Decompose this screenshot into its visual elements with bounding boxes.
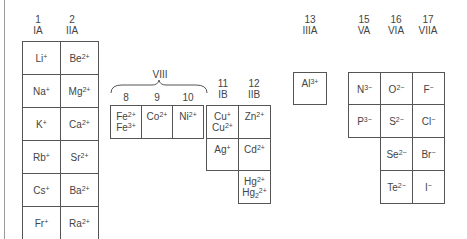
- ion-cd: Cd2+: [244, 144, 265, 155]
- ion-cell: Ca2+: [60, 107, 99, 141]
- ion-cell: Na+: [22, 74, 61, 108]
- ion-cell: O2−: [380, 72, 413, 106]
- ion-p: P3−: [357, 116, 372, 127]
- ion-cell: K+: [22, 107, 61, 141]
- ion-cell: Fr+: [22, 206, 61, 239]
- ion-i: I−: [425, 182, 432, 193]
- ion-hg: Hg2+: [244, 176, 265, 187]
- ion-o: O2−: [389, 84, 405, 95]
- ion-cell: Co2+: [141, 105, 173, 139]
- ion-cell: Ra2+: [60, 206, 99, 239]
- group-header-2: 2IIA: [56, 14, 88, 36]
- group-roman: IB: [207, 89, 239, 100]
- ion-k: K+: [36, 119, 47, 130]
- ion-cell: S2−: [380, 104, 413, 138]
- group-header-13: 13IIIA: [294, 14, 326, 36]
- ion-cell: Cu+Cu2+: [206, 105, 239, 139]
- ion-sr: Sr2+: [71, 152, 89, 163]
- ion-cell: N3−: [348, 72, 381, 106]
- frame-left-border: [4, 0, 5, 239]
- ion-cl: Cl−: [422, 116, 436, 127]
- ion-li: Li+: [36, 53, 48, 64]
- group-roman: IIIA: [294, 25, 326, 36]
- ion-ca: Ca2+: [69, 119, 90, 130]
- ion-n: N3−: [357, 84, 372, 95]
- group-roman: VIA: [380, 25, 412, 36]
- ion-rb: Rb+: [33, 152, 50, 163]
- ion-ni: Ni2+: [179, 111, 196, 122]
- ion-te: Te2−: [387, 182, 406, 193]
- ion-cell: Hg2+Hg22+: [238, 170, 271, 204]
- ion-cell: Fe2+Fe3+: [110, 105, 142, 139]
- ion-cell: I−: [412, 170, 445, 204]
- ion-cell: Be2+: [60, 41, 99, 75]
- ion-s: S2−: [389, 116, 404, 127]
- group-number: 12: [238, 78, 270, 89]
- group-header-17: 17VIIA: [412, 14, 444, 36]
- group-roman: IIB: [238, 89, 270, 100]
- ion-al: Al3+: [302, 78, 319, 89]
- group-header-11: 11IB: [207, 78, 239, 100]
- ion-cu: Cu+: [214, 111, 231, 122]
- ion-ag: Ag+: [214, 144, 230, 155]
- ion-ra: Ra2+: [69, 218, 90, 229]
- group-header-12: 12IIB: [238, 78, 270, 100]
- ion-cell: F−: [412, 72, 445, 106]
- group-number: 1: [22, 14, 54, 25]
- group-roman: VIIA: [412, 25, 444, 36]
- ion-cell: Cd2+: [238, 138, 271, 171]
- group-roman: VA: [348, 25, 380, 36]
- ion-zn: Zn2+: [245, 111, 265, 122]
- group-header-1: 1IA: [22, 14, 54, 36]
- ion-cell: Ag+: [206, 138, 239, 171]
- group-header-15: 15VA: [348, 14, 380, 36]
- ion-cell: Se2−: [380, 137, 413, 171]
- ion-na: Na+: [33, 86, 50, 97]
- ion-cell: Al3+: [293, 72, 327, 105]
- ion-fr: Fr+: [35, 218, 49, 229]
- ion-be: Be2+: [69, 53, 89, 64]
- ion-cu: Cu2+: [212, 122, 233, 133]
- ion-cell: Mg2+: [60, 74, 99, 108]
- group-number: 13: [294, 14, 326, 25]
- ion-co: Co2+: [147, 111, 168, 122]
- ion-fe: Fe2+: [116, 111, 136, 122]
- ion-cell: Br−: [412, 137, 445, 171]
- group-roman: IIA: [56, 25, 88, 36]
- ion-cell: Ba2+: [60, 173, 99, 207]
- ion-cell: Li+: [22, 41, 61, 75]
- ion-cell: Cs+: [22, 173, 61, 207]
- ion-fe: Fe3+: [116, 122, 136, 133]
- group-number: 15: [348, 14, 380, 25]
- ion-se: Se2−: [386, 149, 406, 160]
- group-header-16: 16VIA: [380, 14, 412, 36]
- ion-cell: Te2−: [380, 170, 413, 204]
- ion-mg: Mg2+: [69, 86, 91, 97]
- group-number: 2: [56, 14, 88, 25]
- ion-cell: P3−: [348, 104, 381, 138]
- ion-ba: Ba2+: [69, 185, 89, 196]
- ion-cell: Ni2+: [172, 105, 204, 139]
- group-number: 11: [207, 78, 239, 89]
- group-number: 16: [380, 14, 412, 25]
- group-roman: IA: [22, 25, 54, 36]
- ion-cs: Cs+: [33, 185, 49, 196]
- ion-cell: Zn2+: [238, 105, 271, 139]
- group-number: 17: [412, 14, 444, 25]
- ion-hg: Hg22+: [242, 187, 267, 198]
- ion-cell: Rb+: [22, 140, 61, 174]
- group-viii-brace: [110, 80, 210, 94]
- ion-cell: Cl−: [412, 104, 445, 138]
- ion-cell: Sr2+: [60, 140, 99, 174]
- ion-f: F−: [423, 84, 433, 95]
- ion-br: Br−: [421, 149, 435, 160]
- group-viii-label: VIII: [140, 69, 180, 80]
